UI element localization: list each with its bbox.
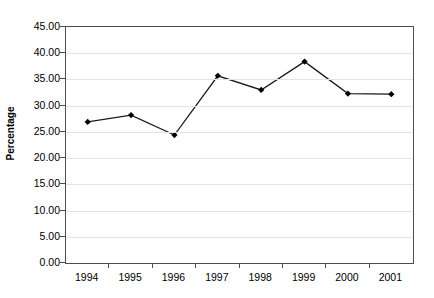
x-axis-tick-mark [152,263,153,268]
gridline-y [66,79,413,80]
y-axis-tick-mark [60,52,65,53]
x-axis-tick-label: 1997 [195,271,238,283]
y-axis-tick-mark [60,210,65,211]
y-axis-tick-label: 45.00 [14,21,60,31]
data-point-marker [85,119,91,125]
y-axis-tick-label: 20.00 [14,152,60,162]
plot-area [65,26,414,264]
x-axis-tick-label: 1998 [239,271,282,283]
y-axis-tick-mark [60,262,65,263]
y-axis-tick-label: 40.00 [14,47,60,57]
x-axis-tick-mark [282,263,283,268]
y-axis-tick-label: 10.00 [14,205,60,215]
x-axis-tick-label: 1996 [152,271,195,283]
y-axis-tick-mark [60,105,65,106]
data-point-marker [128,112,134,118]
y-axis-tick-label: 15.00 [14,178,60,188]
y-axis-tick-mark [60,26,65,27]
gridline-y [66,132,413,133]
series-line-percentage [88,62,392,135]
x-axis-tick-mark [108,263,109,268]
x-axis-tick-label: 2001 [369,271,412,283]
gridline-y [66,158,413,159]
y-axis-tick-label: 5.00 [14,231,60,241]
y-axis-tick-label: 35.00 [14,73,60,83]
data-point-marker [388,91,394,97]
y-axis-tick-mark [60,236,65,237]
gridline-y [66,53,413,54]
x-axis-tick-label: 1999 [282,271,325,283]
y-axis-tick-label: 25.00 [14,126,60,136]
y-axis-tick-label: 30.00 [14,100,60,110]
gridline-y [66,211,413,212]
gridline-y [66,106,413,107]
x-axis-tick-mark [325,263,326,268]
gridline-y [66,184,413,185]
series-markers-percentage [85,59,395,139]
y-axis-tick-labels: 45.0040.0035.0030.0025.0020.0015.0010.00… [14,0,60,298]
x-axis-tick-mark [369,263,370,268]
y-axis-tick-mark [60,157,65,158]
y-axis-tick-mark [60,131,65,132]
x-axis-tick-mark [195,263,196,268]
y-axis-tick-mark [60,78,65,79]
x-axis-tick-label: 2000 [325,271,368,283]
line-chart: Percentage 45.0040.0035.0030.0025.0020.0… [0,0,434,298]
y-axis-tick-label: 0.00 [14,257,60,267]
data-series-layer [66,27,413,263]
y-axis-tick-mark [60,183,65,184]
x-axis-tick-label: 1995 [108,271,151,283]
x-axis-tick-mark [239,263,240,268]
gridline-y [66,237,413,238]
x-axis-tick-label: 1994 [65,271,108,283]
